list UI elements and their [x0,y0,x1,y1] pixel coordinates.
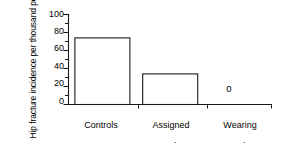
x-category-label-wearing-pads-line-2: pads [210,141,270,144]
x-category-label-assigned-pads-line-1: Assigned [141,120,201,131]
bar-controls [75,38,130,105]
x-axis-ticks [139,105,272,109]
bar-value-wearing-pads: 0 [214,84,244,94]
chart-figure: Hip fracture incidence per thousand per … [0,0,292,143]
bar-assigned-pads [143,74,198,105]
x-category-label-controls: Controls [71,109,131,141]
x-category-label-assigned-pads-line-2: pads [141,141,201,144]
x-category-label-wearing-pads-line-1: Wearing [210,120,270,131]
bar-series [75,38,198,105]
x-category-label-assigned-pads: Assigned pads [141,109,201,143]
x-category-label-wearing-pads: Wearing pads [210,109,270,143]
x-category-label-controls-line-1: Controls [71,120,131,131]
